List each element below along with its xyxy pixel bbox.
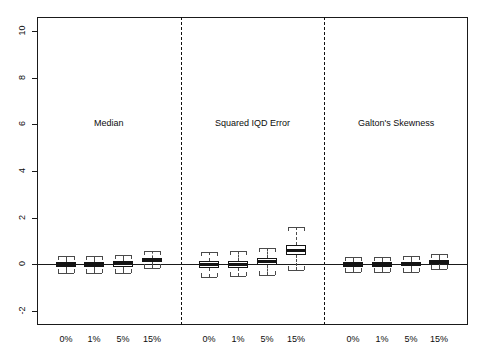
boxplot-cap-serif	[447, 254, 448, 258]
boxplot-upper-cap	[431, 254, 447, 255]
boxplot	[0, 0, 478, 354]
figure-canvas: -202468100%1%5%15%0%1%5%15%0%1%5%15% Med…	[0, 0, 478, 354]
boxplot-cap-serif	[431, 265, 432, 269]
boxplot-lower-cap	[431, 269, 447, 270]
boxplot-cap-serif	[431, 254, 432, 258]
boxplot-cap-serif	[447, 265, 448, 269]
boxplot-median-line	[429, 261, 449, 264]
